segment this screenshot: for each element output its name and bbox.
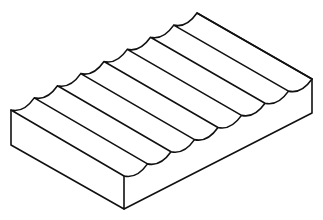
block-svg — [0, 0, 323, 220]
groove-path — [11, 13, 312, 176]
groove-lines — [11, 13, 312, 176]
right-face — [124, 79, 312, 209]
front-face — [11, 110, 124, 209]
grooved-block-drawing — [0, 0, 323, 220]
